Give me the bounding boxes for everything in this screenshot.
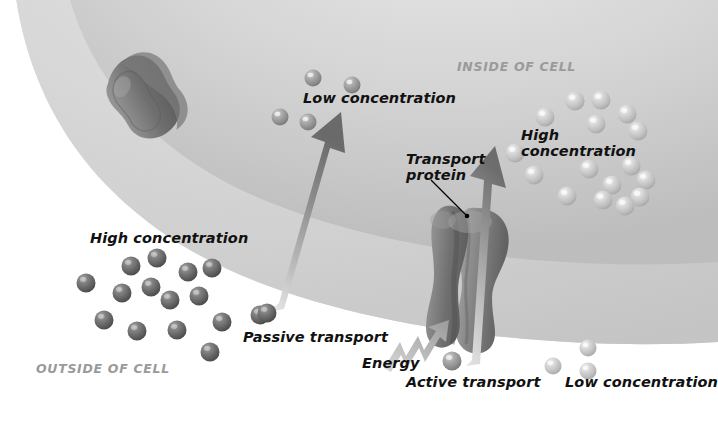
molecule <box>558 187 577 206</box>
molecule <box>128 322 147 341</box>
label-high-concentration-inside: High concentration <box>521 128 636 160</box>
region-label-outside-of-cell: OUTSIDE OF CELL <box>36 362 170 376</box>
molecule-highlight <box>275 112 281 116</box>
label-high-concentration-inside-line2: concentration <box>521 144 636 160</box>
molecule <box>545 358 562 375</box>
molecule-highlight <box>625 160 631 165</box>
label-low-concentration-outside: Low concentration <box>565 374 718 390</box>
molecule <box>580 340 597 357</box>
molecule-highlight <box>583 366 589 370</box>
molecule-highlight <box>583 163 589 168</box>
label-high-concentration-outside: High concentration <box>90 230 248 246</box>
molecule-highlight <box>116 287 122 292</box>
molecule <box>168 321 187 340</box>
molecule <box>201 343 220 362</box>
molecule-highlight <box>597 194 603 199</box>
molecule-highlight <box>98 314 104 319</box>
molecule-highlight <box>548 361 554 365</box>
label-transport-protein: Transport protein <box>406 152 486 184</box>
molecule <box>525 166 544 185</box>
molecule <box>594 191 613 210</box>
label-transport-protein-line2: protein <box>406 168 486 184</box>
molecule-highlight <box>216 316 222 321</box>
molecule <box>616 197 635 216</box>
molecule <box>580 160 599 179</box>
molecule-highlight <box>619 200 625 205</box>
molecule <box>113 284 132 303</box>
molecule-highlight <box>539 111 545 116</box>
region-label-inside-of-cell: INSIDE OF CELL <box>457 60 576 74</box>
molecule-highlight <box>583 343 589 347</box>
molecule <box>305 70 322 87</box>
molecule-group-active-in-transit <box>443 352 462 371</box>
molecule <box>203 259 222 278</box>
molecule <box>148 249 167 268</box>
molecule-highlight <box>595 94 601 99</box>
molecule <box>300 114 317 131</box>
molecule-highlight <box>125 260 131 265</box>
molecule-highlight <box>171 324 177 329</box>
molecule-highlight <box>145 281 151 286</box>
molecule <box>258 304 277 323</box>
label-active-transport: Active transport <box>406 374 540 390</box>
molecule-highlight <box>640 174 646 179</box>
molecule-group-passive-in-transit <box>258 304 277 323</box>
molecule-highlight <box>621 108 627 113</box>
label-energy: Energy <box>362 355 420 371</box>
molecule-highlight <box>182 266 188 271</box>
molecule <box>122 257 141 276</box>
molecule-highlight <box>561 190 567 195</box>
label-transport-protein-line1: Transport <box>406 152 486 168</box>
molecule <box>592 91 611 110</box>
molecule <box>77 274 96 293</box>
molecule <box>161 291 180 310</box>
molecule-highlight <box>308 73 314 77</box>
molecule <box>213 313 232 332</box>
molecule-highlight <box>347 80 353 84</box>
label-high-concentration-inside-line1: High <box>521 128 636 144</box>
cell-transport-diagram: INSIDE OF CELL OUTSIDE OF CELL Low conce… <box>0 0 718 421</box>
molecule-highlight <box>164 294 170 299</box>
molecule <box>190 287 209 306</box>
molecule <box>443 352 462 371</box>
molecule-highlight <box>446 355 452 360</box>
label-low-concentration-inside: Low concentration <box>303 90 456 106</box>
molecule-highlight <box>606 179 612 184</box>
molecule <box>95 311 114 330</box>
molecule-highlight <box>151 252 157 257</box>
molecule <box>637 171 656 190</box>
molecule <box>142 278 161 297</box>
molecule-highlight <box>634 191 640 196</box>
molecule-highlight <box>569 95 575 100</box>
molecule-highlight <box>193 290 199 295</box>
molecule-highlight <box>509 147 515 152</box>
label-passive-transport: Passive transport <box>243 329 388 345</box>
molecule-highlight <box>261 307 267 312</box>
diagram-canvas <box>0 0 718 421</box>
molecule <box>566 92 585 111</box>
molecule-highlight <box>528 169 534 174</box>
molecule <box>618 105 637 124</box>
molecule-highlight <box>590 118 596 123</box>
molecule <box>536 108 555 127</box>
molecule-highlight <box>80 277 86 282</box>
molecule-highlight <box>131 325 137 330</box>
molecule-highlight <box>204 346 210 351</box>
molecule <box>272 109 289 126</box>
molecule-highlight <box>303 117 309 121</box>
molecule <box>179 263 198 282</box>
molecule-highlight <box>206 262 212 267</box>
